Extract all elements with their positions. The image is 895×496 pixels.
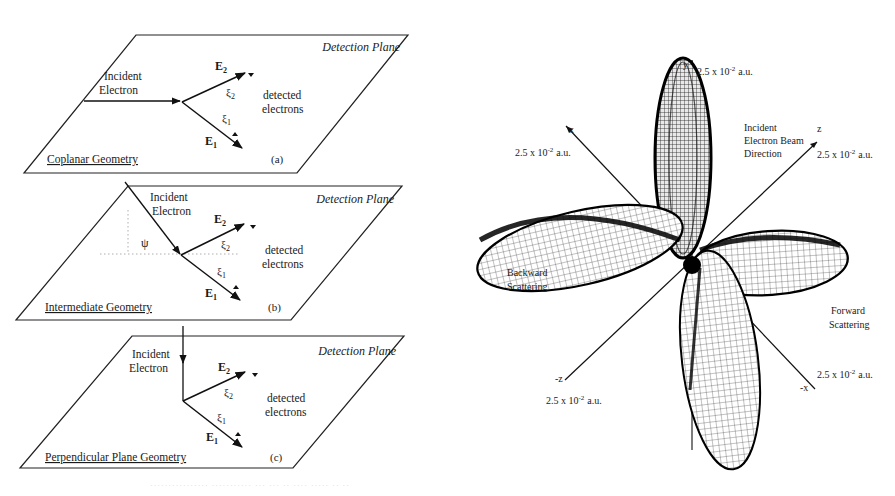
geometry-label-a: Coplanar Geometry [47, 153, 138, 166]
detected-label-c-2: electrons [265, 406, 307, 418]
backward-label-1: Backward [507, 267, 548, 278]
xi1-label-a: ξ1 [222, 112, 231, 127]
z-axis-label: z [817, 123, 822, 134]
plane-label-a: Detection Plane [321, 40, 400, 54]
beam-label-1: Incident [744, 122, 777, 133]
e2-label-b: E2 [214, 212, 226, 228]
backward-label-2: Scattering [507, 281, 548, 292]
e2-label-c: E2 [218, 360, 230, 376]
panel-a-coplanar: Detection Plane Incident Electron E2 E1 … [24, 35, 408, 173]
xi2-label-c: ξ2 [224, 386, 233, 401]
neg-x-scale-label: 2.5 x 10-2a.u. [817, 368, 873, 380]
detected-label-a-2: electrons [262, 103, 304, 115]
geometry-label-b: Intermediate Geometry [45, 301, 152, 314]
beam-label-3: Direction [744, 148, 782, 159]
plane-label-c: Detection Plane [317, 344, 396, 358]
e2-tick-c [252, 373, 258, 377]
forward-label-2: Scattering [829, 319, 870, 330]
y-scale-label: 2.5 x 10-2a.u. [697, 65, 753, 77]
panel-tag-b: (b) [268, 301, 281, 314]
e1-label-b: E1 [205, 286, 217, 302]
panel-tag-c: (c) [270, 451, 283, 464]
e2-label-a: E2 [215, 59, 227, 75]
figure-caption: ················ ··········· ··· ··· ·· … [150, 481, 790, 491]
e1-label-a: E1 [205, 134, 217, 150]
neg-z-axis-label: -z [555, 373, 563, 384]
e1-tick-c [235, 432, 241, 436]
e1-tick-b [233, 285, 239, 289]
panel-c-perpendicular: Detection Plane Incident Electron E2 E1 … [20, 326, 404, 468]
xi1-label-c: ξ1 [217, 411, 226, 426]
detected-label-c-1: detected [267, 392, 306, 404]
incident-label-a-2: Electron [99, 84, 138, 96]
geometry-label-c: Perpendicular Plane Geometry [45, 451, 186, 464]
detected-label-a-1: detected [263, 89, 302, 101]
e1-label-c: E1 [206, 430, 218, 446]
e2-arrow-a [182, 73, 245, 102]
neg-z-scale-label: 2.5 x 10-2a.u. [546, 394, 602, 406]
panel-tag-a: (a) [271, 153, 284, 166]
xi1-label-b: ξ1 [217, 265, 226, 280]
incident-label-a-1: Incident [104, 70, 142, 82]
incident-label-b-1: Incident [150, 191, 188, 203]
e2-arrow-b [181, 224, 244, 255]
incident-label-c-2: Electron [129, 362, 168, 374]
detected-label-b-1: detected [265, 244, 304, 256]
y-axis-label: y [683, 59, 688, 70]
origin-hub [683, 256, 701, 274]
panel-b-intermediate: Detection Plane ψ Incident Electron E2 E… [16, 182, 402, 320]
z-scale-label: 2.5 x 10-2a.u. [817, 148, 873, 160]
figure-canvas: Detection Plane Incident Electron E2 E1 … [0, 0, 895, 496]
angular-distribution-plot: y 2.5 x 10-2a.u. x 2.5 x 10-2a.u. z 2.5 … [469, 58, 872, 474]
beam-label-2: Electron Beam [744, 135, 804, 146]
e2-tick-a [248, 73, 254, 77]
incident-label-b-2: Electron [152, 205, 191, 217]
detected-label-b-2: electrons [262, 258, 304, 270]
x-scale-label: 2.5 x 10-2a.u. [515, 146, 571, 158]
xi2-label-b: ξ2 [221, 238, 230, 253]
e2-tick-b [250, 225, 256, 229]
xi2-label-a: ξ2 [226, 86, 235, 101]
neg-x-axis-label: -x [800, 382, 808, 393]
x-axis-label: x [569, 124, 574, 135]
e1-tick-a [232, 132, 238, 136]
psi-label: ψ [141, 236, 149, 250]
incident-label-c-1: Incident [132, 348, 170, 360]
forward-label-1: Forward [831, 305, 865, 316]
e2-arrow-c [183, 372, 245, 401]
plane-label-b: Detection Plane [315, 192, 394, 206]
